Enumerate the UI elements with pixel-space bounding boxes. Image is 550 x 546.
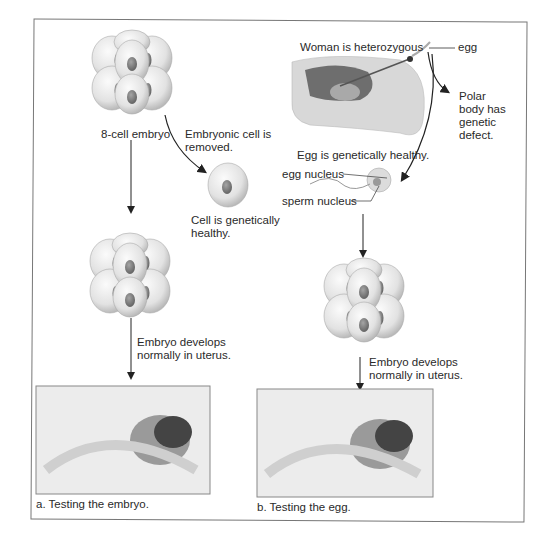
- label-sperm-nucleus: sperm nucleus: [282, 195, 357, 208]
- label-woman-heterozygous: Woman is heterozygous: [300, 41, 423, 54]
- label-embryo-develops-b: Embryo develops normally in uterus.: [369, 356, 473, 382]
- ovary-retrieval-illustration: [292, 42, 430, 135]
- eight-cell-embryo-b-icon: [324, 258, 404, 342]
- label-cell-healthy: Cell is genetically healthy.: [191, 214, 281, 240]
- label-cell-removed: Embryonic cell is removed.: [185, 128, 275, 154]
- eight-cell-embryo-icon: [92, 30, 172, 114]
- label-egg: egg: [458, 41, 477, 54]
- label-eight-cell-embryo: 8-cell embryo: [101, 128, 170, 141]
- newborn-photo-a: [36, 386, 210, 494]
- newborn-photo-b: [257, 389, 433, 497]
- label-egg-healthy: Egg is genetically healthy.: [297, 149, 429, 162]
- label-egg-nucleus: egg nucleus: [282, 168, 344, 181]
- diagram-artwork: [0, 0, 550, 546]
- caption-panel-a: a. Testing the embryo.: [36, 498, 149, 510]
- caption-panel-b: b. Testing the egg.: [257, 501, 351, 513]
- seven-cell-embryo-icon: [90, 233, 170, 317]
- single-cell-icon: [208, 163, 248, 207]
- label-embryo-develops-a: Embryo develops normally in uterus.: [137, 336, 241, 362]
- label-polar-body: Polar body has genetic defect.: [459, 90, 513, 142]
